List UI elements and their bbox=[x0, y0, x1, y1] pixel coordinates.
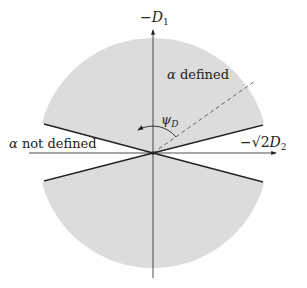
alpha-not-defined-label: α not defined bbox=[9, 136, 97, 151]
diagram-canvas: −D1 −√2D2 α defined α not defined ψD bbox=[0, 0, 307, 288]
horizontal-axis-label: −√2D2 bbox=[240, 134, 287, 152]
origin-point bbox=[151, 151, 155, 155]
vertical-axis-label: −D1 bbox=[140, 9, 169, 27]
alpha-defined-label: α defined bbox=[167, 67, 229, 82]
